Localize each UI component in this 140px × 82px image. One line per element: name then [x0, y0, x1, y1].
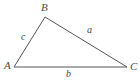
vertex-label-c: C — [130, 61, 137, 72]
triangle-figure: A B C a b c — [0, 0, 140, 82]
triangle-shape — [14, 17, 127, 67]
side-label-a: a — [87, 25, 92, 35]
vertex-label-b: B — [41, 2, 48, 13]
side-label-b: b — [66, 69, 71, 79]
side-label-c: c — [21, 32, 25, 42]
vertex-label-a: A — [4, 60, 11, 71]
